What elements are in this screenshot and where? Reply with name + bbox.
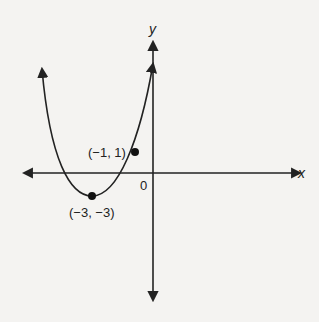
origin-label: 0 (140, 178, 147, 193)
vertex-label: (−3, −3) (69, 205, 115, 220)
point-neg1-1 (131, 148, 139, 156)
graph: y x 0 (−1, 1) (−3, −3) (0, 0, 319, 322)
vertex-point (88, 192, 96, 200)
y-axis-label: y (148, 21, 157, 37)
x-axis-label: x (297, 165, 306, 181)
parabola-curve (42, 64, 153, 196)
point-label-neg1-1: (−1, 1) (88, 145, 126, 160)
